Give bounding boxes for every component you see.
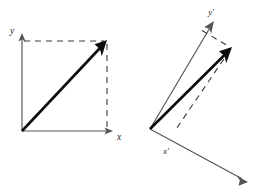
y-axis-label: y	[9, 26, 15, 36]
y-prime-projection-dashed-line	[202, 31, 229, 47]
x-axis-label: x	[116, 132, 122, 142]
y-prime-axis-arrowhead	[204, 21, 214, 34]
figure-canvas: y x y' x'	[0, 0, 264, 196]
x-prime-axis-label: x'	[162, 146, 169, 156]
x-prime-projection-dashed-line	[177, 50, 231, 129]
resultant-vector-line	[22, 48, 101, 132]
resultant-vector-arrowhead	[219, 47, 232, 63]
x-prime-axis-arrowhead	[237, 176, 248, 186]
y-prime-axis-label: y'	[207, 7, 214, 17]
vector-rotation-figure: y x y' x'	[0, 0, 264, 196]
right-panel-rotated-frame: y' x'	[150, 7, 248, 186]
left-panel-original-frame: y x	[9, 26, 122, 142]
